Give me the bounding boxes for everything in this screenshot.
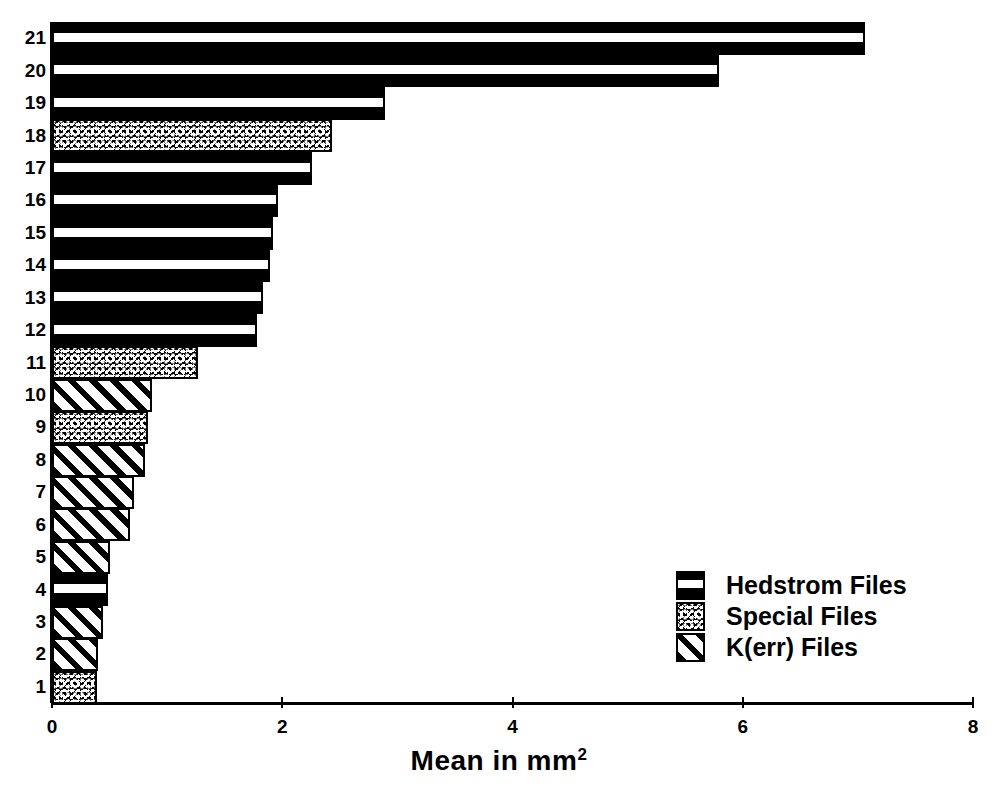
- bar-7: [52, 476, 134, 509]
- bar-14: [52, 249, 270, 282]
- x-tick-2: [281, 697, 283, 708]
- bar-20: [52, 54, 719, 87]
- bar-17: [52, 152, 312, 185]
- bar-10: [52, 379, 152, 412]
- x-tick-8: [972, 697, 974, 708]
- x-axis-title-superscript: 2: [577, 745, 587, 764]
- x-tick-4: [512, 697, 514, 708]
- bar-2: [52, 638, 98, 671]
- bar-11: [52, 346, 198, 379]
- bar-9: [52, 411, 148, 444]
- x-tick-label-6: 6: [737, 716, 748, 738]
- legend-item-special: Special Files: [676, 601, 907, 632]
- x-tick-0: [51, 697, 53, 708]
- x-tick-label-8: 8: [968, 716, 979, 738]
- bar-19: [52, 87, 385, 120]
- bar-15: [52, 217, 273, 250]
- legend-swatch-hedstrom: [676, 571, 705, 600]
- x-axis-title-text: Mean in mm: [411, 745, 578, 776]
- chart-legend: Hedstrom FilesSpecial FilesK(err) Files: [676, 570, 907, 663]
- bar-18: [52, 119, 332, 152]
- bar-12: [52, 314, 257, 347]
- legend-label-kerr: K(err) Files: [726, 635, 858, 660]
- bar-3: [52, 606, 103, 639]
- bar-8: [52, 444, 145, 477]
- legend-swatch-kerr: [676, 633, 705, 662]
- bar-1: [52, 671, 97, 704]
- legend-swatch-special: [676, 602, 705, 631]
- plot-area-bars: [0, 0, 998, 798]
- bar-6: [52, 508, 130, 541]
- x-tick-label-2: 2: [277, 716, 288, 738]
- bar-4: [52, 573, 108, 606]
- x-axis-title: Mean in mm2: [0, 745, 998, 777]
- y-axis-line: [50, 22, 53, 703]
- legend-label-hedstrom: Hedstrom Files: [726, 573, 907, 598]
- bar-chart: 123456789101112131415161718192021 02468 …: [0, 0, 998, 798]
- bar-5: [52, 541, 110, 574]
- legend-label-special: Special Files: [726, 604, 877, 629]
- x-tick-label-0: 0: [47, 716, 58, 738]
- x-tick-label-4: 4: [507, 716, 518, 738]
- bar-13: [52, 281, 263, 314]
- x-tick-6: [742, 697, 744, 708]
- bar-16: [52, 184, 278, 217]
- legend-item-hedstrom: Hedstrom Files: [676, 570, 907, 601]
- bar-21: [52, 22, 865, 55]
- legend-item-kerr: K(err) Files: [676, 632, 907, 663]
